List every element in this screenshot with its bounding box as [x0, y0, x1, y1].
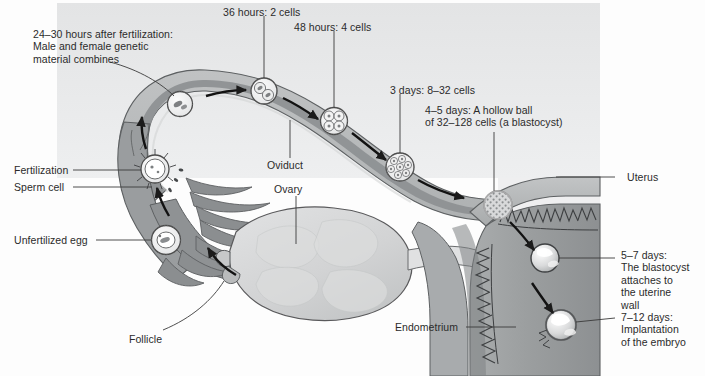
label-sperm-cell: Sperm cell — [14, 181, 64, 193]
label-endometrium: Endometrium — [395, 321, 458, 333]
blastocyst-embryo — [484, 191, 512, 219]
four-cell-embryo — [321, 108, 348, 135]
zygote-cell — [168, 92, 193, 117]
annotation-two-cell: 36 hours: 2 cells — [223, 6, 300, 18]
annotation-morula: 3 days: 8–32 cells — [390, 84, 475, 96]
annotation-attachment: 5–7 days: The blastocyst attaches to the… — [621, 249, 689, 311]
label-uterus: Uterus — [627, 171, 658, 183]
follicle — [216, 250, 230, 266]
label-oviduct: Oviduct — [267, 159, 303, 171]
label-ovary: Ovary — [274, 183, 302, 195]
ovary-lobe-1 — [256, 226, 319, 268]
label-unfertilized-egg: Unfertilized egg — [14, 234, 88, 246]
annotation-implantation: 7–12 days: Implantation of the embryo — [621, 311, 686, 348]
attaching-blastocyst — [531, 244, 559, 272]
label-fertilization: Fertilization — [14, 164, 68, 176]
label-follicle: Follicle — [129, 333, 162, 345]
annotation-blastocyst: 4–5 days: A hollow ball of 32–128 cells … — [425, 104, 563, 129]
annotation-four-cell: 48 hours: 4 cells — [294, 21, 371, 33]
unfertilized-egg-cell — [152, 226, 181, 255]
fertilization-development-diagram: 24–30 hours after fertilization: Male an… — [0, 0, 705, 376]
two-cell-embryo — [251, 78, 277, 104]
morula-embryo — [386, 153, 414, 181]
annotation-zygote: 24–30 hours after fertilization: Male an… — [33, 28, 173, 65]
